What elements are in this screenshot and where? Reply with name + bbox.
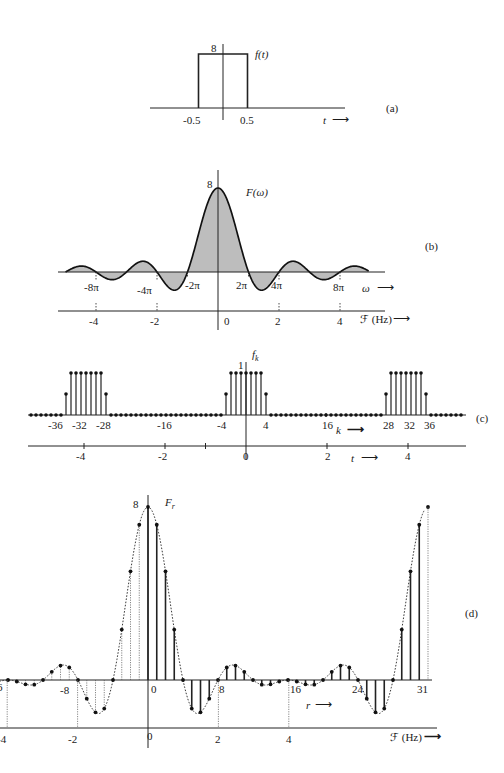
panel-b-freq-tick: -2 [150,315,159,327]
panel-d-sample-dot [15,680,19,684]
panel-d-r-tick: 8 [219,683,225,695]
panel-c-t-tick: -4 [76,450,85,462]
panel-d-sample-dot [382,707,386,711]
panel-c-sample-dot [64,392,68,396]
panel-c-k-tick: -16 [157,419,172,431]
panel-d-peak-label: 8 [133,498,139,510]
panel-c-sample-dot [414,371,418,375]
panel-c-sample-dot [299,413,303,417]
panel-c-function-label: fk [252,348,259,363]
panel-c-sample-dot [49,413,53,417]
panel-d-freq-tick: 2 [215,733,221,745]
panel-c-sample-dot [179,413,183,417]
panel-c-sample-dot [34,413,38,417]
panel-d-sample-dot [312,683,316,687]
panel-b-omega-tick: -4π [137,284,152,296]
panel-c-sample-dot [219,413,223,417]
panel-c-sample-dot [314,413,318,417]
panel-d-freq-tick: 4 [286,733,292,745]
panel-d-freq-tick: -4 [0,733,6,745]
panel-c-sample-dot [59,413,63,417]
panel-c-sample-dot [439,413,443,417]
panel-c-sample-dot [384,392,388,396]
panel-c-caption: (c) [476,412,488,424]
panel-d-sample-dot [199,710,203,714]
panel-c-sample-dot [79,371,83,375]
panel-c-t-arrow-icon: ⟶ [361,450,378,465]
panel-c-sample-dot [254,371,258,375]
panel-b-freq-tick: 2 [275,315,281,327]
panel-c-sample-dot [119,413,123,417]
panel-c-sample-dot [104,392,108,396]
panel-b-freq-tick: 0 [224,315,230,327]
panel-c-k-tick: 16 [322,419,333,431]
panel-b-omega-arrow-icon: ⟶ [377,280,394,295]
panel-c-sample-dot [419,371,423,375]
panel-c-sample-dot [124,413,128,417]
panel-c-sample-dot [319,413,323,417]
panel-a-tick-pos: 0.5 [240,114,254,126]
panel-b-omega-tick: 4π [271,279,282,291]
panel-c-sample-dot [399,371,403,375]
panel-c-t-tick: 4 [405,450,411,462]
panel-d-sample-dot [242,670,246,674]
panel-d-sample-dot [216,678,220,682]
panel-c-sample-dot [369,413,373,417]
panel-a-tick-neg: -0.5 [183,114,200,126]
panel-c-sample-dot [379,413,383,417]
panel-d-sample-dot [181,678,185,682]
panel-c-sample-dot [159,413,163,417]
panel-d-caption: (d) [465,607,478,619]
panel-c-sample-dot [339,413,343,417]
panel-c-k-tick: 28 [383,419,394,431]
panel-d-sample-dot [155,523,159,527]
panel-c-sample-dot [324,413,328,417]
panel-d-sample-dot [234,664,238,668]
panel-c-k-tick: -32 [72,419,87,431]
panel-d-sample-dot [304,682,308,686]
panel-b-omega-tick: -8π [84,281,99,293]
panel-c-sample-dot [184,413,188,417]
panel-c-sample-dot [249,371,253,375]
panel-c-k-axis-label: k [336,424,341,436]
panel-d-freq-tick: 0 [147,730,153,742]
panel-d-r-tick: 24 [352,683,363,695]
panel-d-sample-dot [24,682,28,686]
panel-c-sample-dot [349,413,353,417]
panel-c-sample-dot [234,371,238,375]
panel-c-sample-dot [244,371,248,375]
panel-d-sample-dot [129,569,133,573]
panel-c-function-subscript: k [255,354,259,363]
panel-c-sample-dot [404,371,408,375]
panel-c-sample-dot [329,413,333,417]
panel-c-t-tick: 2 [325,450,331,462]
panel-c-sample-dot [309,413,313,417]
panel-c-sample-dot [209,413,213,417]
panel-c-sample-dot [454,413,458,417]
panel-c-k-tick: -36 [48,419,63,431]
panel-c-sample-dot [264,392,268,396]
panel-b-omega-tick: 8π [333,281,344,293]
panel-d-sample-dot [251,678,255,682]
panel-d-sample-dot [269,682,273,686]
panel-d-sample-dot [111,678,115,682]
panel-d-sample-dot [32,683,36,687]
panel-c-sample-dot [374,413,378,417]
panel-c-sample-dot [409,371,413,375]
panel-c-sample-dot [69,371,73,375]
panel-d-r-tick: 31 [417,683,428,695]
panel-c-k-tick: -28 [96,419,111,431]
panel-d-sample-dot [76,678,80,682]
panel-d-function-name: F [165,496,172,508]
panel-d-sample-dot [356,678,360,682]
panel-d-sample-dot [365,697,369,701]
panel-d-sample-dot [225,666,229,670]
panel-c-k-tick: -4 [217,419,226,431]
panel-c-sample-dot [109,413,113,417]
panel-c-sample-dot [189,413,193,417]
panel-d-sample-dot [102,707,106,711]
panel-a-peak-label: 8 [211,42,217,54]
panel-c-sample-dot [114,413,118,417]
panel-c-sample-dot [259,371,263,375]
panel-d-sample-dot [374,710,378,714]
